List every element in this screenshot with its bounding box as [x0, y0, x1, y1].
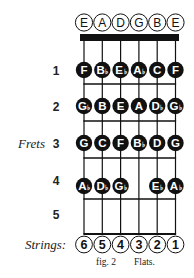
note-letter: G [171, 137, 180, 149]
note-b-flat-fret-3: B♭ [131, 135, 147, 151]
note-e-flat-fret-4: E♭ [149, 178, 165, 194]
open-string-e: E [167, 14, 184, 31]
note-a-flat-fret-1: A♭ [131, 62, 147, 78]
note-d-flat-fret-2: D♭ [149, 98, 165, 114]
fret-numbers: 12345 [53, 64, 60, 222]
string-number-1: 1 [167, 236, 184, 253]
fret-number-2: 2 [53, 100, 60, 114]
flat-sign-icon: ♭ [124, 184, 127, 191]
caption-title: Flats. [134, 257, 155, 267]
string-number-text: 2 [154, 238, 161, 252]
note-e-fret-2: E [112, 98, 128, 114]
string-number-text: 1 [172, 238, 179, 252]
note-letter: B [97, 64, 105, 76]
flat-sign-icon: ♭ [105, 184, 108, 191]
open-string-d: D [112, 14, 129, 31]
open-string-a: A [94, 14, 111, 31]
open-string-letter: A [98, 16, 106, 30]
open-string-letter: G [134, 16, 143, 30]
note-letter: A [170, 180, 178, 192]
note-letter: G [169, 100, 178, 112]
note-letter: G [78, 100, 87, 112]
fretboard-diagram: EADGBE 12345 FB♭E♭A♭CFG♭BEAD♭G♭GCFB♭DGA♭… [0, 0, 194, 278]
note-letter: E [152, 180, 160, 192]
string-number-6: 6 [76, 236, 93, 253]
note-g-flat-fret-2: G♭ [167, 98, 183, 114]
note-letter: D [97, 180, 105, 192]
string-number-labels: 654321 [76, 236, 184, 253]
note-markers: FB♭E♭A♭CFG♭BEAD♭G♭GCFB♭DGA♭D♭G♭E♭A♭ [76, 62, 184, 194]
note-a-flat-fret-4: A♭ [167, 178, 183, 194]
note-letter: C [153, 64, 161, 76]
note-letter: C [98, 137, 106, 149]
nut-bar [80, 34, 179, 41]
note-letter: B [98, 100, 106, 112]
flat-sign-icon: ♭ [105, 68, 108, 75]
open-string-letter: E [80, 16, 88, 30]
note-a-fret-2: A [131, 98, 147, 114]
note-letter: G [80, 137, 89, 149]
note-e-flat-fret-1: E♭ [112, 62, 128, 78]
flat-sign-icon: ♭ [179, 184, 182, 191]
string-number-text: 5 [99, 238, 106, 252]
frets-axis-label: Frets [17, 136, 45, 151]
string-number-5: 5 [94, 236, 111, 253]
flat-sign-icon: ♭ [87, 104, 90, 111]
fret-number-1: 1 [53, 64, 60, 78]
flat-sign-icon: ♭ [87, 184, 90, 191]
flat-sign-icon: ♭ [142, 68, 145, 75]
note-letter: D [153, 137, 161, 149]
note-b-fret-2: B [94, 98, 110, 114]
string-number-text: 4 [117, 238, 124, 252]
fret-number-3: 3 [53, 137, 60, 151]
flat-sign-icon: ♭ [124, 68, 127, 75]
note-letter: D [151, 100, 159, 112]
note-letter: E [117, 100, 125, 112]
note-d-flat-fret-4: D♭ [94, 178, 110, 194]
note-letter: F [172, 64, 179, 76]
note-a-flat-fret-4: A♭ [76, 178, 92, 194]
string-number-3: 3 [131, 236, 148, 253]
note-b-flat-fret-1: B♭ [94, 62, 110, 78]
caption-figure-number: fig. 2 [96, 257, 116, 267]
note-letter: B [133, 137, 141, 149]
open-string-letter: E [171, 16, 179, 30]
note-g-flat-fret-2: G♭ [76, 98, 92, 114]
flat-sign-icon: ♭ [160, 104, 163, 111]
note-letter: G [115, 180, 124, 192]
string-number-text: 6 [81, 238, 88, 252]
string-number-2: 2 [149, 236, 166, 253]
note-g-fret-3: G [76, 135, 92, 151]
open-string-g: G [130, 14, 147, 31]
flat-sign-icon: ♭ [179, 104, 182, 111]
note-g-fret-3: G [167, 135, 183, 151]
note-letter: F [80, 64, 87, 76]
note-letter: A [133, 64, 141, 76]
string-number-4: 4 [112, 236, 129, 253]
note-g-flat-fret-4: G♭ [112, 178, 128, 194]
note-c-fret-1: C [149, 62, 165, 78]
note-c-fret-3: C [94, 135, 110, 151]
open-string-b: B [149, 14, 166, 31]
note-letter: A [135, 100, 143, 112]
fret-number-4: 4 [53, 174, 60, 188]
string-number-text: 3 [135, 238, 142, 252]
flat-sign-icon: ♭ [142, 141, 145, 148]
flat-sign-icon: ♭ [160, 184, 163, 191]
fretboard-svg: EADGBE 12345 FB♭E♭A♭CFG♭BEAD♭G♭GCFB♭DGA♭… [0, 0, 194, 278]
note-d-fret-3: D [149, 135, 165, 151]
note-letter: A [78, 180, 86, 192]
fret-number-5: 5 [53, 208, 60, 222]
open-string-labels: EADGBE [75, 14, 184, 31]
note-f-fret-1: F [167, 62, 183, 78]
open-string-letter: D [116, 16, 125, 30]
note-letter: F [117, 137, 124, 149]
note-f-fret-3: F [112, 135, 128, 151]
note-f-fret-1: F [76, 62, 92, 78]
strings-axis-label: Strings: [25, 237, 66, 252]
open-string-letter: B [153, 16, 161, 30]
open-string-e: E [75, 14, 92, 31]
note-letter: E [115, 64, 123, 76]
